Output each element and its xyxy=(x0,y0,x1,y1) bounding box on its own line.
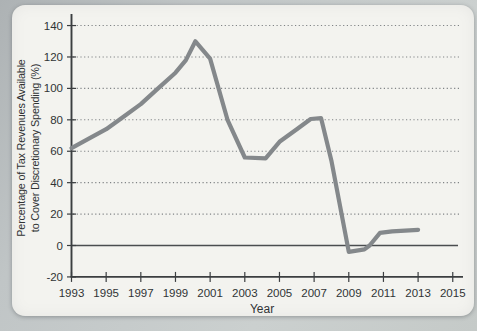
x-tick-label: 2011 xyxy=(371,287,396,299)
x-axis-title: Year xyxy=(62,302,462,316)
x-tick-label: 2009 xyxy=(336,287,362,299)
chart-svg: 140120100806040200-201993199519971999200… xyxy=(0,0,477,331)
x-tick-label: 2015 xyxy=(440,287,466,299)
book-page-photo: 140120100806040200-201993199519971999200… xyxy=(0,0,477,331)
y-axis-title: Percentage of Tax Revenues Available to … xyxy=(15,13,43,283)
x-tick-label: 2007 xyxy=(301,287,327,299)
y-tick-label: -20 xyxy=(46,271,63,283)
x-tick-label: 1997 xyxy=(128,287,154,299)
y-axis-title-line1: Percentage of Tax Revenues Available xyxy=(15,13,29,283)
y-tick-label: 0 xyxy=(57,240,63,252)
y-tick-label: 80 xyxy=(50,114,63,126)
x-tick-label: 1993 xyxy=(59,287,85,299)
x-tick-label: 1995 xyxy=(93,287,119,299)
y-axis-title-line2: to Cover Discretionary Spending (%) xyxy=(29,13,43,283)
x-tick-label: 2001 xyxy=(197,287,223,299)
y-tick-label: 140 xyxy=(44,20,63,32)
x-tick-label: 2005 xyxy=(267,287,293,299)
x-tick-label: 1999 xyxy=(163,287,189,299)
x-tick-label: 2003 xyxy=(232,287,258,299)
y-tick-label: 60 xyxy=(50,145,63,157)
y-tick-label: 20 xyxy=(50,208,63,220)
x-tick-label: 2013 xyxy=(405,287,431,299)
y-tick-label: 40 xyxy=(50,177,63,189)
y-tick-label: 100 xyxy=(44,82,63,94)
y-tick-label: 120 xyxy=(44,51,63,63)
data-line xyxy=(72,41,419,252)
